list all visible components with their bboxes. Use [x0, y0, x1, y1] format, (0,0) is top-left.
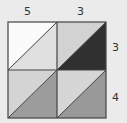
triangle-grid-diagram — [0, 0, 127, 123]
